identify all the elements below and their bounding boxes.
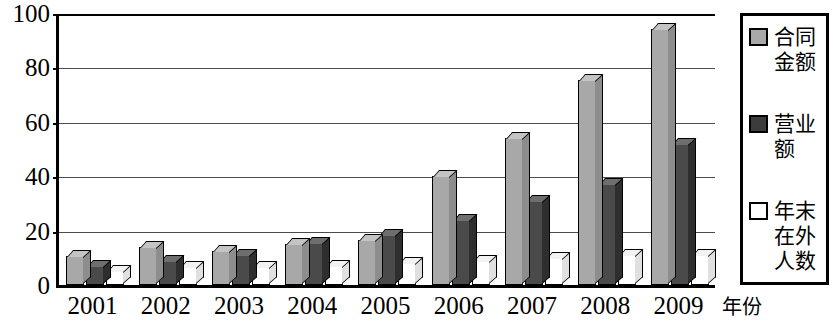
legend-entry-0[interactable]: 合同金额	[749, 24, 822, 74]
bar-side-face	[395, 229, 403, 284]
x-tick-label-2002: 2002	[129, 291, 202, 321]
bar-2001-series-0	[66, 256, 84, 285]
bar-2008-series-0	[578, 80, 596, 285]
bar-group-2008	[572, 14, 645, 285]
x-tick-label-2006: 2006	[422, 291, 495, 321]
y-tick-label: 80	[4, 55, 50, 80]
bar-side-face	[469, 214, 477, 284]
x-tick-label-2009: 2009	[642, 291, 715, 321]
bar-side-face	[595, 74, 603, 284]
bar-group-2003	[205, 14, 278, 285]
bar-side-face	[615, 178, 623, 284]
x-tick-label-2001: 2001	[56, 291, 129, 321]
legend-entry-2[interactable]: 年末在外人数	[749, 198, 822, 273]
y-axis: 100806040200	[0, 0, 50, 326]
bar-side-face	[322, 237, 330, 284]
bar-side-face	[449, 170, 457, 284]
bar-side-face	[668, 23, 676, 284]
bar-side-face	[302, 238, 310, 284]
bar-side-face	[415, 257, 423, 284]
light-gray-swatch-icon	[749, 28, 768, 46]
bar-2004-series-0	[285, 244, 303, 285]
bar-2006-series-0	[432, 176, 450, 285]
legend-label-0: 合同金额	[774, 24, 822, 74]
bar-side-face	[688, 138, 696, 284]
x-axis: 200120022003200420052006200720082009	[56, 291, 756, 326]
legend-label-2: 年末在外人数	[774, 198, 822, 273]
dark-gray-swatch-icon	[749, 115, 768, 133]
x-tick-label-2005: 2005	[349, 291, 422, 321]
bar-group-2009	[645, 14, 718, 285]
bar-group-2002	[132, 14, 205, 285]
bar-side-face	[708, 249, 716, 284]
x-tick-label-2007: 2007	[495, 291, 568, 321]
legend-entry-1[interactable]: 营业额	[749, 111, 822, 161]
bar-2003-series-0	[212, 251, 230, 285]
y-tick-label: 100	[4, 1, 50, 26]
x-tick-label-2003: 2003	[202, 291, 275, 321]
bar-2009-series-0	[651, 29, 669, 285]
bar-side-face	[522, 132, 530, 284]
bar-2007-series-0	[505, 138, 523, 285]
x-tick-label-2008: 2008	[569, 291, 642, 321]
bar-2005-series-0	[358, 240, 376, 285]
y-tick-label: 20	[4, 219, 50, 244]
x-tick-label-2004: 2004	[276, 291, 349, 321]
chart-legend: 合同金额营业额年末在外人数	[740, 13, 829, 285]
bar-group-2005	[352, 14, 425, 285]
y-tick-label: 40	[4, 164, 50, 189]
bar-group-2001	[59, 14, 132, 285]
bar-side-face	[156, 241, 164, 284]
white-swatch-icon	[749, 202, 768, 220]
bar-group-2006	[425, 14, 498, 285]
bars-layer	[59, 14, 715, 285]
y-tick-label: 0	[4, 273, 50, 298]
bar-group-2007	[498, 14, 571, 285]
plot-area	[56, 14, 715, 288]
bar-group-2004	[279, 14, 352, 285]
bar-side-face	[562, 252, 570, 284]
bar-side-face	[542, 195, 550, 284]
x-axis-title: 年份	[722, 294, 762, 320]
bar-2002-series-0	[139, 247, 157, 285]
bar-side-face	[375, 234, 383, 284]
legend-label-1: 营业额	[774, 111, 822, 161]
y-tick-label: 60	[4, 110, 50, 135]
bar-chart: 100806040200 200120022003200420052006200…	[0, 0, 834, 326]
bar-side-face	[635, 249, 643, 284]
